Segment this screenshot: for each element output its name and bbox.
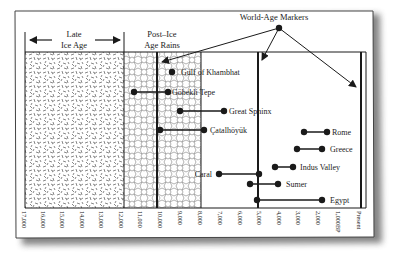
tick-label: 14,000 <box>79 211 86 228</box>
period-label: Ice Age <box>61 40 87 50</box>
tick-label: 10,000 <box>157 211 164 228</box>
svg-text:Greece: Greece <box>330 145 353 154</box>
tick-label: 2,000 <box>315 211 322 225</box>
tick-label: 8,000 <box>197 211 204 225</box>
svg-text:Rome: Rome <box>332 128 352 137</box>
marker-origin-dot <box>276 25 282 31</box>
svg-text:Caral: Caral <box>195 170 213 179</box>
tick-label: 1,000BP <box>335 211 342 233</box>
period-label: Age Rains <box>144 40 180 50</box>
svg-text:Çatalhöyük: Çatalhöyük <box>210 126 247 135</box>
svg-text:Gulf of Khambhat: Gulf of Khambhat <box>181 68 240 77</box>
svg-text:Indus Valley: Indus Valley <box>300 163 340 172</box>
tick-label: 15,000 <box>59 211 66 228</box>
svg-text:Göbekli Tepe: Göbekli Tepe <box>172 88 216 97</box>
tick-label: 12,000 <box>118 211 125 228</box>
svg-text:Sumer: Sumer <box>286 180 307 189</box>
period-label: Post–Ice <box>147 29 177 39</box>
tick-label: 6,000 <box>237 211 244 225</box>
late-ice-age-region <box>25 52 124 208</box>
svg-text:Egypt: Egypt <box>330 196 350 205</box>
tick-label: 4,000 <box>276 211 283 225</box>
tick-label: 5,000 <box>256 211 263 225</box>
tick-label: Present <box>356 211 363 229</box>
period-label: Late <box>66 29 81 39</box>
tick-label: 3,000 <box>295 211 302 225</box>
tick-label: 9,000 <box>177 211 184 225</box>
svg-text:Great Sphinx: Great Sphinx <box>229 107 271 116</box>
tick-label: 17,000 <box>21 211 28 228</box>
tick-label: 16,000 <box>40 211 47 228</box>
tick-label: 13,000 <box>98 211 105 228</box>
period-post-ice-age-rains: Post–Ice Age Rains <box>144 29 180 50</box>
timeline-diagram: Late Ice Age Post–Ice Age Rains World-Ag… <box>0 0 400 255</box>
markers-label: World-Age Markers <box>240 12 308 22</box>
tick-label: 11,000 <box>137 211 144 228</box>
tick-label: 7,000 <box>217 211 224 225</box>
